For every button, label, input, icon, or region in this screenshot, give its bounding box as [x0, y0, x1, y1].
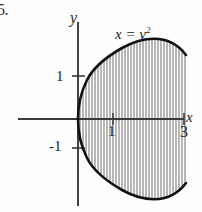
y-tick-label-1: 1	[56, 69, 64, 84]
problem-number-label: 5.	[0, 2, 8, 18]
y-tick-label-neg1: -1	[49, 139, 62, 154]
x-tick-label-3: 3	[180, 124, 188, 140]
equation-annotation: x = y2	[115, 26, 150, 42]
figure-container: 5. y x x = y2 1 -1 1 3	[0, 0, 202, 212]
equation-base: x = y	[115, 26, 146, 42]
parabola-figure-svg	[0, 0, 202, 212]
x-tick-label-1: 1	[108, 124, 116, 139]
y-axis-label: y	[70, 10, 77, 26]
equation-exponent: 2	[146, 25, 151, 35]
